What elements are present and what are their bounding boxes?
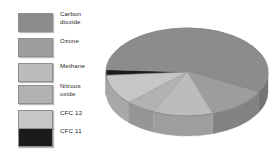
legend-swatch-fill [19,129,52,146]
legend-swatch-fill [19,64,52,81]
legend-swatch-fill [19,39,52,56]
legend-swatch-fill [19,14,52,31]
legend-swatch-methane [18,63,53,82]
legend-swatch-fill [19,86,52,103]
legend-swatch-ozone [18,38,53,57]
pie-chart-canvas [104,8,280,142]
legend-swatch-fill [19,111,52,128]
figure-root: Carbon dioxide Ozone Methane Nitrous oxi… [0,0,280,150]
legend-swatch-nitrous-oxide [18,85,53,104]
legend-swatch-cfc-12 [18,110,53,129]
pie-chart [104,8,280,142]
legend-swatch-carbon-dioxide [18,13,53,32]
legend-swatch-cfc-11 [18,128,53,147]
